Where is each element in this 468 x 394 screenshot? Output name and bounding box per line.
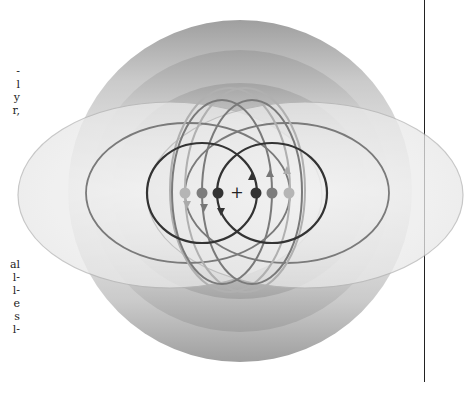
orbit-diagram: + xyxy=(0,0,468,394)
center-plus-label: + xyxy=(230,183,243,202)
charge-right-light xyxy=(284,188,295,199)
charge-right-medium xyxy=(267,188,278,199)
charge-left-medium xyxy=(197,188,208,199)
charge-left-dark xyxy=(213,188,224,199)
charge-right-dark xyxy=(251,188,262,199)
charge-left-light xyxy=(180,188,191,199)
